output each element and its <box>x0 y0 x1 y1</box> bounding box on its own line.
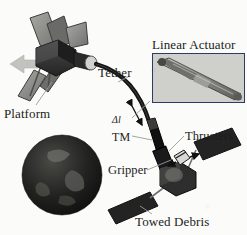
label-towed-debris: Towed Debris <box>135 215 209 228</box>
figure-canvas: Platform Tether Linear Actuator Δl TM Th… <box>0 0 247 235</box>
label-linear-actuator: Linear Actuator <box>152 38 235 51</box>
label-tm: TM <box>112 131 130 143</box>
earth-globe <box>22 135 102 215</box>
label-delta-l: Δl <box>112 115 121 125</box>
platform-spacecraft <box>10 12 97 101</box>
label-platform: Platform <box>4 107 50 120</box>
delta-l-arrow <box>132 106 142 125</box>
tether-management-module <box>147 118 173 170</box>
linear-actuator-inset <box>152 53 245 103</box>
label-gripper: Gripper <box>108 164 148 177</box>
label-tether: Tether <box>98 66 132 79</box>
label-thrusters: Thrusters <box>185 130 233 143</box>
